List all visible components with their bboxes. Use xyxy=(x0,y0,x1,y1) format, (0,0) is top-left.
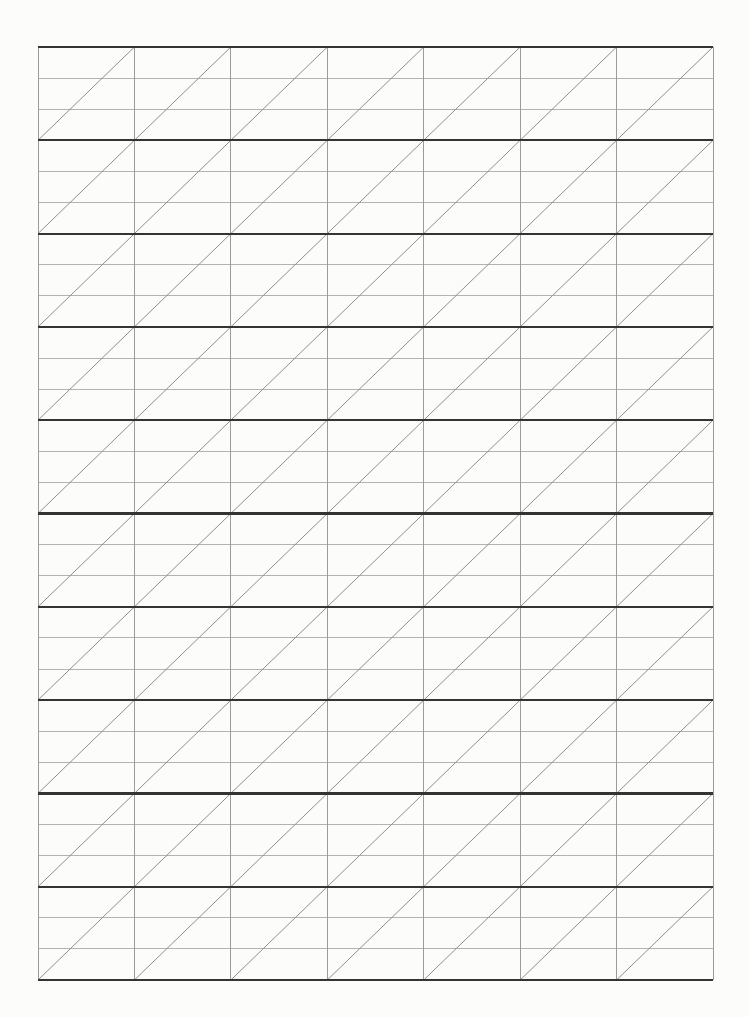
diagonal-line xyxy=(231,887,327,980)
diagonal-line xyxy=(38,887,134,980)
diagonal-line xyxy=(327,700,423,793)
diagonal-line xyxy=(617,234,713,327)
diagonal-line xyxy=(38,140,134,233)
diagonal-line xyxy=(231,514,327,607)
diagonal-line xyxy=(134,887,230,980)
diagonal-line xyxy=(424,887,520,980)
diagonal-line xyxy=(231,607,327,700)
diagonal-line xyxy=(617,327,713,420)
diagonal-line xyxy=(520,514,616,607)
diagonal-line xyxy=(38,793,134,886)
diagonal-line xyxy=(38,700,134,793)
diagonal-line xyxy=(134,700,230,793)
diagonal-line xyxy=(617,887,713,980)
diagonal-line xyxy=(134,514,230,607)
diagonal-line xyxy=(327,514,423,607)
diagonal-line xyxy=(520,327,616,420)
diagonal-line xyxy=(327,47,423,140)
diagonal-line xyxy=(424,514,520,607)
diagonal-line xyxy=(327,420,423,513)
diagonal-line xyxy=(231,327,327,420)
diagonal-line xyxy=(231,793,327,886)
diagonal-line xyxy=(520,607,616,700)
diagonal-line xyxy=(327,607,423,700)
diagonal-line xyxy=(617,514,713,607)
diagonal-line xyxy=(424,420,520,513)
diagonal-line xyxy=(327,887,423,980)
diagonal-line xyxy=(38,327,134,420)
diagonal-line xyxy=(617,47,713,140)
diagonal-line xyxy=(424,47,520,140)
diagonal-line xyxy=(424,140,520,233)
diagonal-line xyxy=(231,700,327,793)
diagonal-line xyxy=(617,607,713,700)
diagonal-line xyxy=(134,793,230,886)
diagonal-line xyxy=(38,514,134,607)
diagonal-line xyxy=(38,607,134,700)
diagonal-line xyxy=(231,420,327,513)
diagonal-line xyxy=(327,793,423,886)
diagonal-line xyxy=(134,47,230,140)
diagonal-line xyxy=(134,327,230,420)
diagonal-line xyxy=(520,700,616,793)
diagonal-line xyxy=(38,234,134,327)
diagonal-line xyxy=(617,140,713,233)
diagonal-line xyxy=(134,420,230,513)
diagonal-line xyxy=(520,234,616,327)
diagonal-line xyxy=(231,140,327,233)
diagonal-line xyxy=(520,887,616,980)
diagonal-line xyxy=(134,607,230,700)
diagonal-line xyxy=(617,700,713,793)
diagonal-line xyxy=(424,793,520,886)
diagonal-line xyxy=(424,234,520,327)
diagonal-line xyxy=(520,47,616,140)
diagonal-line xyxy=(424,607,520,700)
diagonal-line xyxy=(424,700,520,793)
diagonal-line xyxy=(617,793,713,886)
diagonal-line xyxy=(520,420,616,513)
diagonal-line xyxy=(327,140,423,233)
practice-sheet xyxy=(0,0,749,1017)
practice-grid xyxy=(0,0,749,1017)
diagonal-line xyxy=(617,420,713,513)
diagonal-line xyxy=(134,234,230,327)
diagonal-line xyxy=(424,327,520,420)
diagonal-line xyxy=(38,47,134,140)
diagonal-line xyxy=(38,420,134,513)
diagonal-line xyxy=(520,793,616,886)
diagonal-line xyxy=(134,140,230,233)
diagonal-line xyxy=(231,47,327,140)
diagonal-line xyxy=(327,234,423,327)
diagonal-line xyxy=(520,140,616,233)
diagonal-line xyxy=(231,234,327,327)
diagonal-line xyxy=(327,327,423,420)
